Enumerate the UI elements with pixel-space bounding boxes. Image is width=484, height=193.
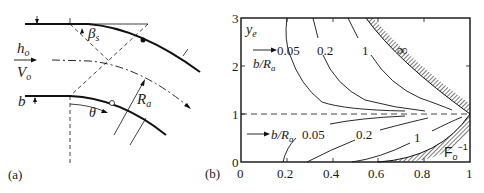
panel-b-chart: 3 2 1 0 0 0.2 0.4 0.6 0.8 1 (b) ye 0.05 … [205, 11, 473, 181]
radius-dim-line [130, 118, 146, 145]
lower-param-arrow-icon [264, 132, 270, 137]
lower-label-0.2: 0.2 [356, 127, 372, 142]
radius-arrow-icon [140, 79, 145, 86]
V0-label: Vo [17, 64, 31, 82]
y-tick-2: 2 [232, 59, 239, 74]
Ra-label: Ra [136, 91, 151, 109]
y-axis-label: ye [244, 22, 257, 39]
up-arrow-icon [33, 97, 37, 102]
curve-upper-0.05 [286, 18, 405, 111]
top-wall-tick [183, 49, 188, 56]
upper-param-label: b/Ra [253, 56, 276, 73]
upper-boundary-hatch [366, 18, 470, 114]
panel-a-label: (a) [8, 167, 22, 182]
b-label: b [18, 93, 26, 109]
beta-label: βs [87, 25, 99, 43]
y-ticks [241, 66, 470, 114]
h0-label: ho [17, 40, 30, 58]
radius-line [114, 81, 144, 135]
beta-arrow-icon [80, 28, 84, 34]
upper-label-1: 1 [362, 43, 369, 58]
upper-label-infinity: ∞ [397, 42, 408, 58]
theta-label: θ [89, 105, 96, 120]
x-tick-0: 0 [237, 166, 244, 181]
x-tick-0.2: 0.2 [277, 166, 293, 181]
lower-label-0.05: 0.05 [302, 127, 325, 142]
centerline [52, 60, 190, 108]
theta-arc [70, 104, 106, 112]
theta-arrow-icon [101, 109, 108, 113]
panel-a-schematic: ho Vo b βs θ Ra (a) [8, 16, 200, 182]
x-tick-1: 1 [466, 166, 473, 181]
x-tick-0.8: 0.8 [414, 166, 430, 181]
curve-upper-1 [348, 18, 452, 110]
top-wall-point [141, 38, 146, 43]
x-tick-0.6: 0.6 [368, 166, 385, 181]
flow-arrow-icon [31, 58, 37, 63]
x-tick-0.4: 0.4 [323, 166, 340, 181]
lower-label-1: 1 [414, 130, 421, 145]
lower-param-label: b/Ra [271, 127, 294, 144]
upper-label-0.2: 0.2 [317, 43, 333, 58]
figure: ho Vo b βs θ Ra (a) 3 2 1 0 0 0.2 0.4 0.… [0, 0, 484, 193]
upper-label-0.05: 0.05 [277, 43, 300, 58]
panel-b-label: (b) [205, 166, 220, 181]
centerline-arrow-icon [184, 103, 191, 109]
bottom-wall-point [110, 101, 115, 106]
y-tick-3: 3 [232, 11, 239, 26]
y-tick-1: 1 [232, 107, 239, 122]
